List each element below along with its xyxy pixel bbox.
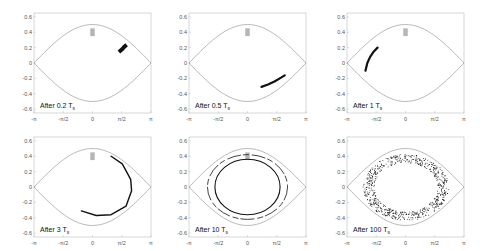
x-tick-label: -π <box>186 116 192 122</box>
y-tick-label: 0 <box>29 184 32 190</box>
axes-frame <box>347 137 464 237</box>
particle-cloud <box>363 154 449 220</box>
x-tick-label: π/2 <box>273 116 281 122</box>
y-tick-label: 0.6 <box>24 138 32 144</box>
y-tick-label: 0.2 <box>179 45 187 51</box>
panel-2: 0.60.40.20-0.2-0.4-0.6-π-π/20π/2πAfter 0… <box>178 13 309 122</box>
separatrix-lower <box>34 187 151 225</box>
x-tick-label: 0 <box>246 240 249 246</box>
x-tick-label: -π <box>31 240 37 246</box>
panel-3: 0.60.40.20-0.2-0.4-0.6-π-π/20π/2πAfter 1… <box>336 13 467 122</box>
axes-frame <box>189 137 306 237</box>
panel-annotation: After 10 Ts <box>195 226 229 235</box>
x-tick-label: 0 <box>91 240 94 246</box>
y-tick-label: 0 <box>342 184 345 190</box>
x-tick-label: π <box>149 116 153 122</box>
particle-filament <box>81 156 131 215</box>
y-tick-label: -0.4 <box>23 215 32 221</box>
x-tick-label: 0 <box>404 240 407 246</box>
y-tick-label: -0.4 <box>23 91 32 97</box>
axes-frame <box>34 13 151 113</box>
y-tick-label: 0.6 <box>24 14 32 20</box>
y-tick-label: -0.4 <box>336 91 345 97</box>
y-tick-label: 0.2 <box>337 169 345 175</box>
y-tick-label: 0.6 <box>337 14 345 20</box>
x-tick-label: π <box>304 116 308 122</box>
y-tick-label: -0.2 <box>23 199 32 205</box>
panel-1: 0.60.40.20-0.2-0.4-0.6-π-π/20π/2πAfter 0… <box>23 13 154 122</box>
y-tick-label: -0.6 <box>178 106 187 112</box>
panel-annotation: After 0.2 Ts <box>40 102 76 111</box>
phase-space-figure: 0.60.40.20-0.2-0.4-0.6-π-π/20π/2πAfter 0… <box>0 0 488 251</box>
y-tick-label: 0.4 <box>179 153 187 159</box>
particle-ring-inner <box>215 159 280 214</box>
x-tick-label: -π/2 <box>371 116 381 122</box>
y-tick-label: 0.2 <box>24 169 32 175</box>
y-tick-label: -0.2 <box>336 199 345 205</box>
y-tick-label: -0.2 <box>178 75 187 81</box>
y-tick-label: 0.2 <box>24 45 32 51</box>
x-tick-label: -π <box>344 240 350 246</box>
y-tick-label: 0 <box>184 184 187 190</box>
y-tick-label: -0.6 <box>23 106 32 112</box>
initial-distribution-box <box>90 28 94 36</box>
panel-4: 0.60.40.20-0.2-0.4-0.6-π-π/20π/2πAfter 3… <box>23 137 154 246</box>
x-tick-label: -π/2 <box>213 116 223 122</box>
x-tick-label: π/2 <box>118 116 126 122</box>
y-tick-label: -0.6 <box>336 106 345 112</box>
y-tick-label: 0.6 <box>179 14 187 20</box>
y-tick-label: -0.6 <box>23 230 32 236</box>
y-tick-label: -0.2 <box>336 75 345 81</box>
x-tick-label: π/2 <box>431 116 439 122</box>
x-tick-label: π <box>149 240 153 246</box>
panel-5: 0.60.40.20-0.2-0.4-0.6-π-π/20π/2πAfter 1… <box>178 137 309 246</box>
x-tick-label: -π/2 <box>213 240 223 246</box>
x-tick-label: -π <box>344 116 350 122</box>
panel-6: 0.60.40.20-0.2-0.4-0.6-π-π/20π/2πAfter 1… <box>336 137 467 246</box>
x-tick-label: π/2 <box>118 240 126 246</box>
y-tick-label: 0.6 <box>179 138 187 144</box>
y-tick-label: 0.2 <box>179 169 187 175</box>
x-tick-label: -π/2 <box>371 240 381 246</box>
particle-bunch <box>120 46 125 51</box>
initial-distribution-box <box>90 152 94 160</box>
y-tick-label: -0.6 <box>336 230 345 236</box>
y-tick-label: -0.6 <box>178 230 187 236</box>
x-tick-label: -π/2 <box>58 116 68 122</box>
x-tick-label: 0 <box>246 116 249 122</box>
y-tick-label: 0.4 <box>337 153 345 159</box>
y-tick-label: 0.2 <box>337 45 345 51</box>
axes-frame <box>189 13 306 113</box>
initial-distribution-box <box>245 28 249 36</box>
x-tick-label: π/2 <box>431 240 439 246</box>
y-tick-label: -0.4 <box>178 215 187 221</box>
panel-annotation: After 0.5 Ts <box>195 102 231 111</box>
x-tick-label: π <box>462 240 466 246</box>
particle-ring-outer <box>207 155 287 220</box>
y-tick-label: -0.2 <box>178 199 187 205</box>
x-tick-label: -π/2 <box>58 240 68 246</box>
separatrix-lower <box>347 63 464 101</box>
axes-frame <box>34 137 151 237</box>
y-tick-label: 0 <box>184 60 187 66</box>
separatrix-lower <box>189 63 306 101</box>
x-tick-label: 0 <box>91 116 94 122</box>
panel-annotation: After 3 Ts <box>40 226 70 235</box>
y-tick-label: 0.4 <box>337 29 345 35</box>
y-tick-label: -0.2 <box>23 75 32 81</box>
y-tick-label: 0 <box>29 60 32 66</box>
particle-filament <box>365 48 377 71</box>
x-tick-label: -π <box>31 116 37 122</box>
y-tick-label: 0 <box>342 60 345 66</box>
panel-annotation: After 1 Ts <box>353 102 383 111</box>
y-tick-label: 0.4 <box>24 153 32 159</box>
separatrix-lower <box>34 63 151 101</box>
y-tick-label: 0.6 <box>337 138 345 144</box>
axes-frame <box>347 13 464 113</box>
x-tick-label: π <box>304 240 308 246</box>
y-tick-label: -0.4 <box>336 215 345 221</box>
x-tick-label: π/2 <box>273 240 281 246</box>
y-tick-label: 0.4 <box>179 29 187 35</box>
x-tick-label: π <box>462 116 466 122</box>
particle-filament <box>261 75 284 87</box>
